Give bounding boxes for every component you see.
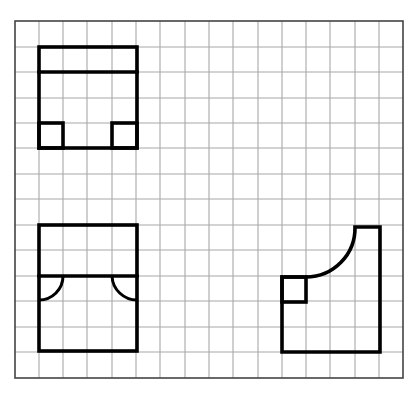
bottom-left-view-right-arc xyxy=(112,276,137,300)
bottom-right-view-outline xyxy=(282,227,380,352)
top-left-view-left-square xyxy=(39,123,63,148)
bottom-left-view-left-arc xyxy=(39,276,63,300)
diagram-canvas xyxy=(0,0,417,394)
grid-diagram xyxy=(0,0,417,394)
grid-lines xyxy=(15,21,403,378)
bottom-left-view xyxy=(39,225,137,351)
bottom-left-view-outline xyxy=(39,225,137,351)
bottom-right-view xyxy=(282,227,380,352)
bottom-right-view-square xyxy=(282,277,306,302)
top-left-view-right-square xyxy=(112,123,137,148)
